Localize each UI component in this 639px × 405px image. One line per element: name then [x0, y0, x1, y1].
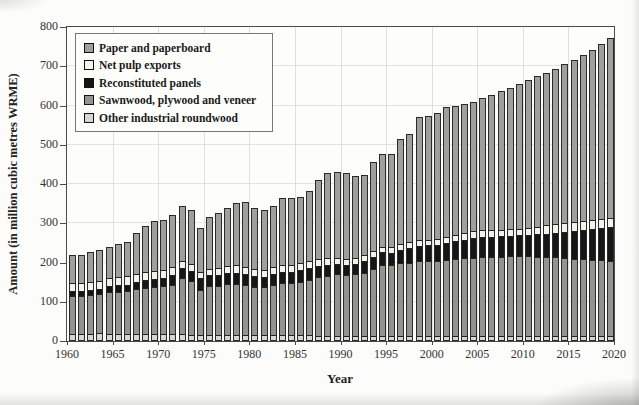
x-tick-label: 1995	[366, 347, 406, 362]
bar-segment-paper-and-paperboard	[562, 65, 567, 222]
legend-label: Sawnwood, plywood and veneer	[99, 94, 256, 106]
bar-segment-sawnwood-plywood-and-veneer	[88, 295, 93, 333]
bar-segment-reconstituted-panels	[307, 268, 312, 279]
bar-segment-sawnwood-plywood-and-veneer	[371, 269, 376, 336]
bar-segment-paper-and-paperboard	[161, 221, 166, 269]
bar-segment-other-industrial-roundwood	[325, 336, 330, 340]
bar-segment-reconstituted-panels	[590, 229, 595, 260]
bar-segment-other-industrial-roundwood	[125, 334, 130, 340]
bar-segment-reconstituted-panels	[143, 280, 148, 287]
bar-segment-paper-and-paperboard	[462, 105, 467, 234]
bar-2010	[516, 84, 523, 341]
bar-segment-reconstituted-panels	[198, 278, 203, 290]
x-tick-mark	[432, 341, 433, 345]
bar-segment-other-industrial-roundwood	[307, 335, 312, 340]
bar-1983	[270, 206, 277, 341]
bar-segment-other-industrial-roundwood	[335, 336, 340, 340]
bar-1964	[96, 250, 103, 341]
bar-1993	[361, 175, 368, 341]
bar-segment-reconstituted-panels	[389, 253, 394, 266]
bar-segment-paper-and-paperboard	[116, 245, 121, 277]
bar-segment-paper-and-paperboard	[316, 181, 321, 258]
bar-segment-net-pulp-exports	[88, 282, 93, 290]
bar-segment-reconstituted-panels	[353, 264, 358, 275]
bar-segment-paper-and-paperboard	[280, 199, 285, 265]
bar-segment-net-pulp-exports	[216, 268, 221, 275]
bar-segment-reconstituted-panels	[371, 257, 376, 269]
bar-segment-sawnwood-plywood-and-veneer	[70, 296, 75, 334]
bar-segment-sawnwood-plywood-and-veneer	[289, 283, 294, 336]
bar-segment-paper-and-paperboard	[590, 51, 595, 220]
bar-1977	[215, 213, 222, 341]
bar-segment-sawnwood-plywood-and-veneer	[608, 261, 613, 336]
bar-segment-paper-and-paperboard	[325, 174, 330, 258]
bar-segment-sawnwood-plywood-and-veneer	[170, 285, 175, 335]
bar-1991	[343, 173, 350, 341]
x-gridline	[568, 27, 569, 341]
bar-segment-reconstituted-panels	[517, 235, 522, 256]
bar-segment-paper-and-paperboard	[426, 117, 431, 240]
bar-segment-net-pulp-exports	[298, 263, 303, 270]
bar-segment-other-industrial-roundwood	[152, 334, 157, 340]
x-tick-mark	[523, 341, 524, 345]
y-tick-label: 100	[18, 294, 58, 309]
bar-segment-paper-and-paperboard	[271, 207, 276, 268]
x-tick-label: 1980	[229, 347, 269, 362]
bar-segment-sawnwood-plywood-and-veneer	[134, 289, 139, 334]
bar-segment-paper-and-paperboard	[207, 218, 212, 269]
bar-segment-paper-and-paperboard	[307, 192, 312, 261]
bar-segment-paper-and-paperboard	[572, 61, 577, 222]
bar-segment-paper-and-paperboard	[471, 103, 476, 231]
x-tick-mark	[249, 341, 250, 345]
bar-segment-sawnwood-plywood-and-veneer	[572, 259, 577, 336]
y-tick-label: 600	[18, 98, 58, 113]
legend-label: Reconstituted panels	[99, 77, 201, 89]
bar-segment-net-pulp-exports	[526, 228, 531, 235]
y-tick-mark	[60, 27, 66, 28]
bar-1978	[224, 208, 231, 341]
bar-segment-sawnwood-plywood-and-veneer	[499, 257, 504, 336]
y-tick-label: 400	[18, 176, 58, 191]
y-tick-mark	[60, 341, 66, 342]
x-tick-mark	[386, 341, 387, 345]
bar-1997	[397, 139, 404, 341]
bar-segment-paper-and-paperboard	[389, 155, 394, 247]
bar-segment-sawnwood-plywood-and-veneer	[262, 287, 267, 335]
bar-segment-net-pulp-exports	[608, 218, 613, 227]
bar-segment-sawnwood-plywood-and-veneer	[97, 294, 102, 333]
bar-segment-net-pulp-exports	[152, 271, 157, 279]
bar-segment-other-industrial-roundwood	[499, 336, 504, 340]
bar-segment-sawnwood-plywood-and-veneer	[344, 275, 349, 336]
bar-segment-paper-and-paperboard	[262, 211, 267, 269]
bar-segment-other-industrial-roundwood	[572, 336, 577, 340]
y-tick-label: 200	[18, 255, 58, 270]
bar-2009	[507, 88, 514, 341]
bar-1989	[324, 173, 331, 341]
bar-segment-sawnwood-plywood-and-veneer	[444, 260, 449, 336]
bar-segment-other-industrial-roundwood	[581, 336, 586, 340]
x-tick-label: 1965	[93, 347, 133, 362]
bar-segment-sawnwood-plywood-and-veneer	[590, 260, 595, 336]
bar-segment-sawnwood-plywood-and-veneer	[480, 257, 485, 336]
bar-segment-sawnwood-plywood-and-veneer	[599, 260, 604, 336]
y-tick-label: 700	[18, 58, 58, 73]
bar-segment-net-pulp-exports	[289, 265, 294, 272]
bar-2012	[534, 76, 541, 341]
bar-segment-paper-and-paperboard	[380, 155, 385, 247]
x-tick-mark	[113, 341, 114, 345]
bar-segment-sawnwood-plywood-and-veneer	[462, 258, 467, 336]
bar-segment-other-industrial-roundwood	[298, 335, 303, 340]
bar-segment-reconstituted-panels	[435, 245, 440, 261]
bar-segment-sawnwood-plywood-and-veneer	[243, 285, 248, 335]
bar-segment-net-pulp-exports	[572, 222, 577, 231]
bar-1973	[179, 206, 186, 341]
bar-segment-net-pulp-exports	[271, 267, 276, 274]
bar-segment-paper-and-paperboard	[435, 114, 440, 239]
bar-1988	[315, 180, 322, 341]
bar-segment-other-industrial-roundwood	[225, 335, 230, 340]
bar-segment-paper-and-paperboard	[134, 234, 139, 274]
bar-segment-other-industrial-roundwood	[553, 336, 558, 340]
bar-segment-net-pulp-exports	[599, 219, 604, 228]
bar-segment-sawnwood-plywood-and-veneer	[417, 261, 422, 336]
bar-2011	[525, 80, 532, 341]
